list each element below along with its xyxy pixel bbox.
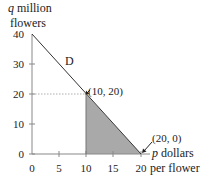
x-axis-label-line2: per flower [150, 161, 200, 175]
y-tick-label-10: 10 [13, 118, 25, 130]
x-axis-unit: dollars [161, 146, 194, 160]
demand-chart: 40 30 20 10 0 0 5 10 15 20 qmillion flow… [0, 0, 205, 178]
x-axis-label-line1: pdollars [151, 146, 194, 160]
y-axis-var: q [8, 1, 14, 15]
x-tick-label-10: 10 [81, 162, 93, 174]
y-axis-label-line2: flowers [10, 16, 46, 30]
point-label-10-20: (10, 20) [88, 85, 123, 98]
point-label-20-0: (20, 0) [152, 132, 182, 145]
arrow-icon-point-20-0 [142, 142, 152, 153]
y-tick-label-0: 0 [19, 148, 25, 160]
y-tick-label-20: 20 [13, 88, 25, 100]
x-tick-label-5: 5 [56, 162, 62, 174]
x-axis-var: p [151, 146, 158, 160]
y-axis-label-line1: qmillion [8, 1, 52, 15]
x-tick-label-0: 0 [29, 162, 35, 174]
x-tick-label-15: 15 [108, 162, 120, 174]
y-tick-label-30: 30 [13, 58, 25, 70]
y-axis-unit: million [17, 1, 52, 15]
x-tick-label-20: 20 [136, 162, 148, 174]
demand-label-D: D [65, 54, 74, 68]
